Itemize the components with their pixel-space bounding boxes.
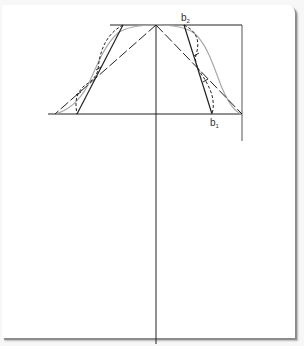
right-upper-tick: [194, 53, 199, 56]
left-long-dashed-diagonal: [55, 25, 156, 114]
label-b2: b2: [181, 12, 191, 24]
left-solid-tangent: [77, 25, 123, 114]
smooth-grey-curve: [55, 25, 242, 114]
left-lower-tick: [76, 92, 81, 95]
page-background: b2 b1: [0, 0, 304, 346]
curve-construction-diagram: b2 b1: [0, 0, 304, 346]
label-b1: b1: [210, 117, 220, 129]
